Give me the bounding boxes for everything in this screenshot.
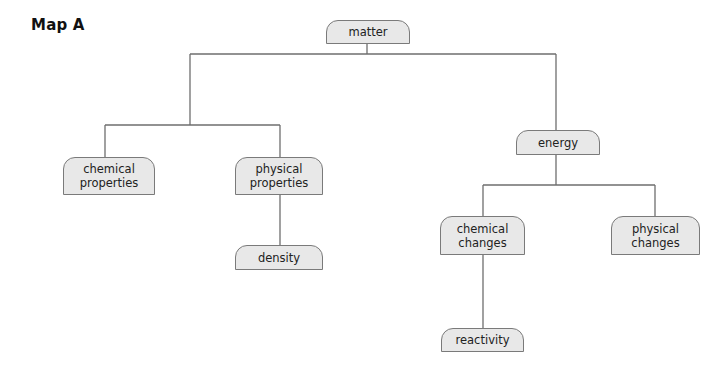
node-physical-properties: physical properties bbox=[235, 157, 323, 195]
node-label-line2: properties bbox=[250, 176, 309, 190]
node-density: density bbox=[235, 245, 323, 270]
node-label-line1: chemical bbox=[457, 222, 509, 236]
node-label-line1: physical bbox=[255, 162, 302, 176]
node-label: density bbox=[258, 251, 300, 265]
node-label: matter bbox=[348, 25, 387, 39]
node-matter: matter bbox=[326, 20, 410, 44]
node-chemical-changes: chemical changes bbox=[440, 216, 525, 255]
node-physical-changes: physical changes bbox=[611, 216, 700, 255]
node-reactivity: reactivity bbox=[441, 328, 524, 352]
node-chemical-properties: chemical properties bbox=[63, 157, 155, 195]
node-label-line1: chemical bbox=[83, 162, 135, 176]
node-label-line2: properties bbox=[80, 176, 139, 190]
node-energy: energy bbox=[516, 130, 600, 155]
node-label: reactivity bbox=[456, 333, 510, 347]
node-label-line1: physical bbox=[632, 222, 679, 236]
node-label-line2: changes bbox=[631, 236, 679, 250]
node-label-line2: changes bbox=[458, 236, 506, 250]
node-label: energy bbox=[538, 136, 578, 150]
